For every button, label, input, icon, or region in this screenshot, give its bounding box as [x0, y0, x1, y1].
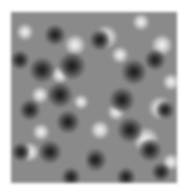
dark-spot	[20, 100, 40, 120]
dark-spot	[30, 58, 54, 82]
dark-spot	[156, 101, 174, 119]
light-spot	[112, 47, 128, 63]
light-spot	[65, 35, 85, 55]
light-spot	[91, 121, 109, 139]
dark-spot	[48, 83, 72, 107]
dark-spot	[62, 168, 80, 183]
light-spot	[17, 24, 33, 40]
dark-spot	[84, 149, 106, 171]
light-spot	[33, 124, 49, 140]
dark-spot	[139, 139, 161, 161]
dark-spot	[45, 25, 65, 45]
dark-spot	[39, 141, 61, 163]
dark-spot	[57, 111, 79, 133]
light-spot	[74, 95, 88, 109]
dark-spot	[118, 118, 142, 142]
dark-spot	[59, 53, 85, 79]
turing-pattern-image	[11, 12, 177, 183]
dark-spot	[90, 30, 110, 50]
dark-spot	[145, 50, 165, 70]
dark-spot	[110, 88, 134, 112]
dark-spot	[117, 168, 135, 183]
dark-spot	[12, 143, 30, 161]
dark-spot	[11, 51, 29, 69]
light-spot	[133, 14, 149, 30]
light-spot	[163, 74, 177, 90]
dark-spot	[152, 163, 170, 181]
dark-spot	[122, 60, 146, 84]
